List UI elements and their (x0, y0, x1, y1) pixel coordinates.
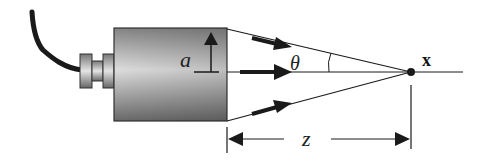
distance-label: z (301, 126, 311, 151)
connector (80, 54, 114, 88)
ray-arrow-center (240, 64, 292, 80)
angle-label: θ (290, 52, 300, 74)
angle-arc (328, 53, 331, 72)
ray-arrow-bottom (252, 100, 292, 114)
beam-rays (227, 29, 411, 121)
distance-dimension (227, 85, 411, 153)
focal-point (407, 68, 415, 76)
cable (32, 12, 82, 70)
focal-point-label: x (422, 50, 431, 70)
transducer-focusing-diagram: a θ x z (0, 0, 487, 163)
aperture-label: a (180, 47, 191, 72)
